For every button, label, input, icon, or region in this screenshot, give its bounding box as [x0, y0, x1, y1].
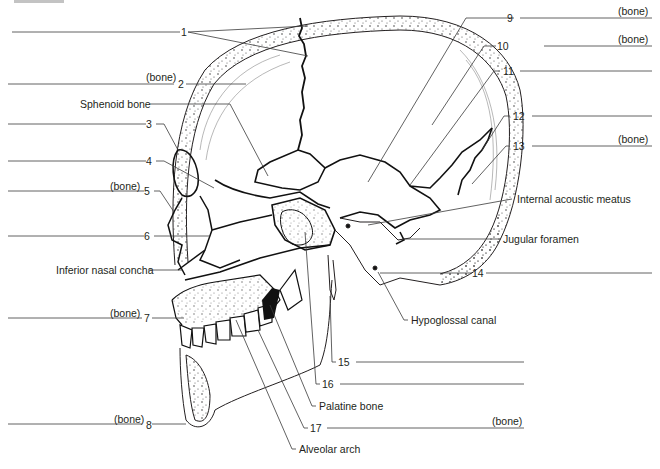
label-number-4: 4: [146, 155, 152, 167]
label-palatine-bone: Palatine bone: [319, 400, 383, 412]
label-suffix-17: (bone): [492, 415, 522, 427]
cranial-vault: [173, 16, 523, 285]
label-number-7: 7: [144, 312, 150, 324]
label-number-9: 9: [507, 12, 513, 24]
styloid-process: [328, 255, 336, 300]
label-jugular-foramen: Jugular foramen: [503, 233, 579, 245]
label-number-5: 5: [144, 185, 150, 197]
label-number-3: 3: [146, 118, 152, 130]
occipital-region: [335, 218, 440, 285]
label-inferior-nasal-concha: Inferior nasal concha: [56, 264, 153, 276]
label-number-12: 12: [513, 110, 525, 122]
label-hypoglossal-canal: Hypoglossal canal: [411, 314, 496, 326]
label-sphenoid-bone: Sphenoid bone: [80, 98, 151, 110]
label-number-17: 17: [310, 422, 322, 434]
label-suffix-10: (bone): [618, 33, 648, 45]
label-number-16: 16: [322, 378, 334, 390]
label-number-10: 10: [497, 40, 509, 52]
label-number-14: 14: [472, 267, 484, 279]
label-suffix-5: (bone): [110, 180, 140, 192]
label-number-13: 13: [513, 140, 525, 152]
label-number-11: 11: [503, 65, 514, 77]
label-suffix-13: (bone): [618, 133, 648, 145]
pterygoid-plate: [280, 270, 302, 310]
label-number-8: 8: [146, 419, 152, 431]
label-number-15: 15: [338, 356, 350, 368]
label-suffix-8: (bone): [114, 413, 144, 425]
label-internal-acoustic-meatus: Internal acoustic meatus: [517, 193, 631, 205]
label-number-6: 6: [144, 230, 150, 242]
label-suffix-9: (bone): [618, 5, 648, 17]
label-number-2: 2: [178, 78, 184, 90]
label-alveolar-arch: Alveolar arch: [299, 443, 360, 455]
caption-fragment: [14, 0, 64, 3]
label-suffix-7: (bone): [110, 307, 140, 319]
label-suffix-2: (bone): [146, 71, 176, 83]
lambdoid-suture: [458, 128, 492, 195]
label-number-1: 1: [181, 26, 187, 38]
